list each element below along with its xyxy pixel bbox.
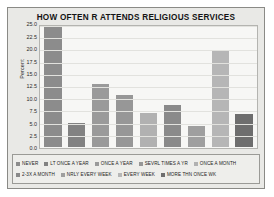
legend-item[interactable]: NRLY EVERY WEEK bbox=[61, 172, 112, 177]
legend-label: 2-3X A MONTH bbox=[22, 172, 55, 177]
legend-label: LT ONCE A YEAR bbox=[50, 161, 88, 166]
gridline bbox=[40, 99, 257, 100]
y-tick-label: 5.0 bbox=[11, 122, 37, 127]
legend-label: EVERY WEEK bbox=[124, 172, 155, 177]
y-tick-label: 10.0 bbox=[11, 97, 37, 102]
legend-item[interactable]: MORE THN ONCE WK bbox=[161, 172, 216, 177]
y-axis-ticks: 0.02.55.07.510.012.515.017.520.022.525.0 bbox=[8, 25, 37, 149]
legend-swatch-icon bbox=[161, 173, 165, 177]
y-tick-label: 15.0 bbox=[11, 72, 37, 77]
y-tick-label: 2.5 bbox=[11, 134, 37, 139]
legend-item[interactable]: ONCE A MONTH bbox=[194, 161, 236, 166]
legend-item[interactable]: EVERY WEEK bbox=[118, 172, 155, 177]
y-tick-label: 17.5 bbox=[11, 60, 37, 65]
legend-label: SEVRL TIMES A YR bbox=[145, 161, 188, 166]
legend-swatch-icon bbox=[194, 162, 198, 166]
y-tick-label: 20.0 bbox=[11, 47, 37, 52]
legend-item[interactable]: LT ONCE A YEAR bbox=[44, 161, 88, 166]
bar[interactable] bbox=[92, 84, 109, 147]
gridline bbox=[40, 124, 257, 125]
y-tick-label: 12.5 bbox=[11, 84, 37, 89]
legend-swatch-icon bbox=[44, 162, 48, 166]
legend-item[interactable]: NEVER bbox=[16, 161, 38, 166]
chart-title: HOW OFTEN R ATTENDS RELIGIOUS SERVICES bbox=[8, 13, 264, 22]
bar[interactable] bbox=[116, 95, 133, 147]
legend-swatch-icon bbox=[61, 173, 65, 177]
y-tick-label: 0.0 bbox=[11, 146, 37, 151]
legend-label: NEVER bbox=[22, 161, 38, 166]
bar[interactable] bbox=[235, 114, 252, 147]
chart-legend: NEVERLT ONCE A YEARONCE A YEARSEVRL TIME… bbox=[12, 154, 260, 184]
legend-label: NRLY EVERY WEEK bbox=[67, 172, 112, 177]
gridline bbox=[40, 38, 257, 39]
legend-label: MORE THN ONCE WK bbox=[167, 172, 216, 177]
plot-area bbox=[39, 25, 258, 149]
legend-item[interactable]: 2-3X A MONTH bbox=[16, 172, 55, 177]
legend-row-1: NEVERLT ONCE A YEARONCE A YEARSEVRL TIME… bbox=[16, 158, 256, 169]
gridline bbox=[40, 50, 257, 51]
gridline bbox=[40, 26, 257, 27]
legend-swatch-icon bbox=[118, 173, 122, 177]
gridline bbox=[40, 136, 257, 137]
gridline bbox=[40, 63, 257, 64]
legend-item[interactable]: SEVRL TIMES A YR bbox=[139, 161, 188, 166]
legend-label: ONCE A MONTH bbox=[200, 161, 236, 166]
legend-swatch-icon bbox=[95, 162, 99, 166]
legend-row-2: 2-3X A MONTHNRLY EVERY WEEKEVERY WEEKMOR… bbox=[16, 169, 256, 180]
legend-swatch-icon bbox=[16, 162, 20, 166]
y-tick-label: 22.5 bbox=[11, 35, 37, 40]
y-tick-label: 25.0 bbox=[11, 22, 37, 27]
bar[interactable] bbox=[140, 113, 157, 147]
chart-figure: HOW OFTEN R ATTENDS RELIGIOUS SERVICES P… bbox=[7, 7, 265, 189]
gridline bbox=[40, 87, 257, 88]
y-tick-label: 7.5 bbox=[11, 109, 37, 114]
legend-label: ONCE A YEAR bbox=[101, 161, 133, 166]
gridline bbox=[40, 111, 257, 112]
legend-item[interactable]: ONCE A YEAR bbox=[95, 161, 133, 166]
gridline bbox=[40, 75, 257, 76]
legend-swatch-icon bbox=[16, 173, 20, 177]
legend-swatch-icon bbox=[139, 162, 143, 166]
